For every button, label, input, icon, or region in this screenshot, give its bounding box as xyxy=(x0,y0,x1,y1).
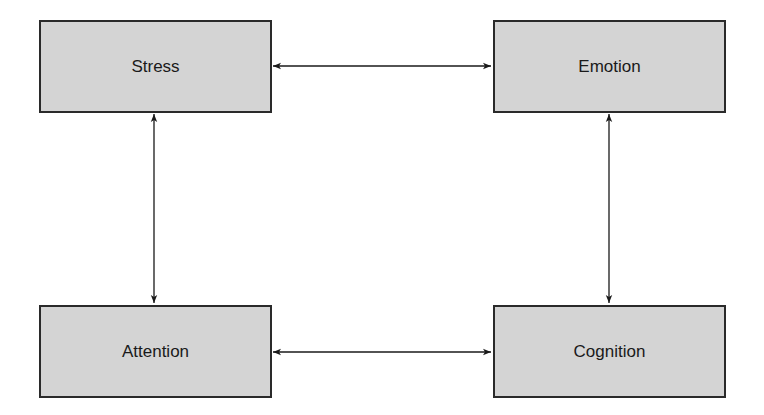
node-cognition-label: Cognition xyxy=(574,342,646,362)
node-stress-label: Stress xyxy=(131,57,179,77)
node-attention: Attention xyxy=(39,305,272,398)
node-emotion: Emotion xyxy=(493,20,726,113)
node-emotion-label: Emotion xyxy=(578,57,640,77)
node-attention-label: Attention xyxy=(122,342,189,362)
node-stress: Stress xyxy=(39,20,272,113)
node-cognition: Cognition xyxy=(493,305,726,398)
